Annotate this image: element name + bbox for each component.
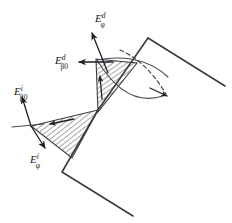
label-diffracted-beta0: Edβ0 (54, 53, 68, 71)
lower-incident-shading (31, 110, 98, 158)
label-incident-phi: Eiφ (29, 152, 41, 170)
cone-direction-arrow (150, 88, 167, 96)
svg-text:Eiβ0: Eiβ0 (13, 84, 28, 102)
label-incident-beta0: Eiβ0 (13, 84, 28, 102)
label-diffracted-phi: Edφ (94, 11, 106, 29)
svg-text:Eiφ: Eiφ (29, 152, 41, 170)
svg-text:Edβ0: Edβ0 (54, 53, 68, 71)
figure-canvas: Edφ Edβ0 Eiβ0 Eiφ (0, 0, 232, 223)
svg-text:Edφ: Edφ (94, 11, 106, 29)
diffraction-figure: Edφ Edβ0 Eiβ0 Eiφ (0, 0, 232, 223)
